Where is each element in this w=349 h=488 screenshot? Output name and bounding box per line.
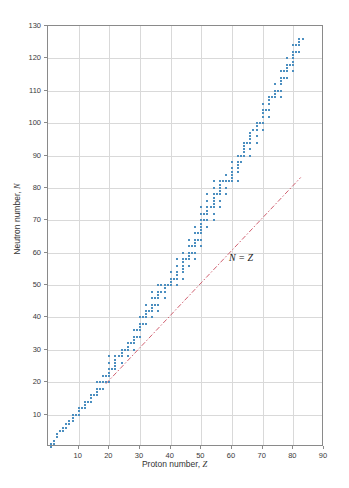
data-point xyxy=(90,397,92,399)
data-point xyxy=(237,171,239,173)
data-point xyxy=(90,394,92,396)
y-tick-mark xyxy=(44,349,47,350)
data-point xyxy=(151,291,153,293)
data-point xyxy=(213,180,215,182)
data-point xyxy=(133,339,135,341)
data-point xyxy=(216,193,218,195)
data-point xyxy=(130,342,132,344)
data-point xyxy=(225,180,227,182)
data-point xyxy=(188,255,190,257)
data-point xyxy=(170,281,172,283)
data-point xyxy=(93,394,95,396)
x-tick-mark xyxy=(139,446,140,449)
data-point xyxy=(225,187,227,189)
data-point xyxy=(102,388,104,390)
data-point xyxy=(231,174,233,176)
data-point xyxy=(302,38,304,40)
data-point xyxy=(56,433,58,435)
data-point xyxy=(237,161,239,163)
data-point xyxy=(249,155,251,157)
data-point xyxy=(53,440,55,442)
data-point xyxy=(99,388,101,390)
data-point xyxy=(243,142,245,144)
data-point xyxy=(271,96,273,98)
x-axis-label-text: Proton number, Z xyxy=(142,459,207,469)
x-tick-mark xyxy=(200,446,201,449)
data-point xyxy=(133,342,135,344)
data-point xyxy=(265,109,267,111)
data-point xyxy=(292,70,294,72)
data-point xyxy=(243,148,245,150)
x-tick-mark xyxy=(323,446,324,449)
y-tick-mark xyxy=(44,414,47,415)
x-tick-mark xyxy=(170,446,171,449)
y-tick-mark xyxy=(44,381,47,382)
data-point xyxy=(213,200,215,202)
data-point xyxy=(157,297,159,299)
data-point xyxy=(182,271,184,273)
data-point xyxy=(164,291,166,293)
data-point xyxy=(286,77,288,79)
y-tick-mark xyxy=(44,90,47,91)
data-point xyxy=(200,229,202,231)
data-point xyxy=(298,41,300,43)
data-point xyxy=(262,109,264,111)
data-point xyxy=(170,278,172,280)
data-point xyxy=(96,381,98,383)
data-point xyxy=(145,304,147,306)
data-point xyxy=(219,180,221,182)
data-point xyxy=(203,219,205,221)
data-point xyxy=(286,64,288,66)
data-point xyxy=(219,184,221,186)
data-point xyxy=(154,297,156,299)
data-point xyxy=(160,284,162,286)
data-point xyxy=(136,336,138,338)
data-point xyxy=(114,368,116,370)
data-point xyxy=(249,138,251,140)
data-point xyxy=(108,372,110,374)
plot-area xyxy=(47,25,323,446)
data-point xyxy=(274,93,276,95)
data-point xyxy=(164,287,166,289)
data-point xyxy=(102,381,104,383)
data-point xyxy=(145,316,147,318)
data-point xyxy=(139,336,141,338)
data-point xyxy=(194,239,196,241)
data-point xyxy=(53,443,55,445)
data-point xyxy=(200,232,202,234)
data-point xyxy=(194,252,196,254)
data-point xyxy=(160,291,162,293)
data-point xyxy=(219,206,221,208)
data-point xyxy=(185,258,187,260)
y-tick-label: 100 xyxy=(13,118,41,127)
data-point xyxy=(197,239,199,241)
data-point xyxy=(231,177,233,179)
data-point xyxy=(164,284,166,286)
data-point xyxy=(191,245,193,247)
data-point xyxy=(194,245,196,247)
data-point xyxy=(262,116,264,118)
data-point xyxy=(133,336,135,338)
data-point xyxy=(121,352,123,354)
data-point xyxy=(114,365,116,367)
data-point xyxy=(225,174,227,176)
data-point xyxy=(148,310,150,312)
data-point xyxy=(200,219,202,221)
data-point xyxy=(222,180,224,182)
data-point xyxy=(90,401,92,403)
y-tick-label: 120 xyxy=(13,53,41,62)
data-point xyxy=(219,187,221,189)
data-point xyxy=(142,323,144,325)
data-point xyxy=(206,219,208,221)
data-point xyxy=(280,77,282,79)
data-point xyxy=(96,388,98,390)
data-point xyxy=(206,193,208,195)
data-point xyxy=(176,284,178,286)
data-point xyxy=(200,245,202,247)
data-point xyxy=(127,349,129,351)
data-point xyxy=(206,200,208,202)
data-point xyxy=(151,316,153,318)
data-point xyxy=(206,226,208,228)
data-point xyxy=(249,132,251,134)
data-point xyxy=(108,375,110,377)
